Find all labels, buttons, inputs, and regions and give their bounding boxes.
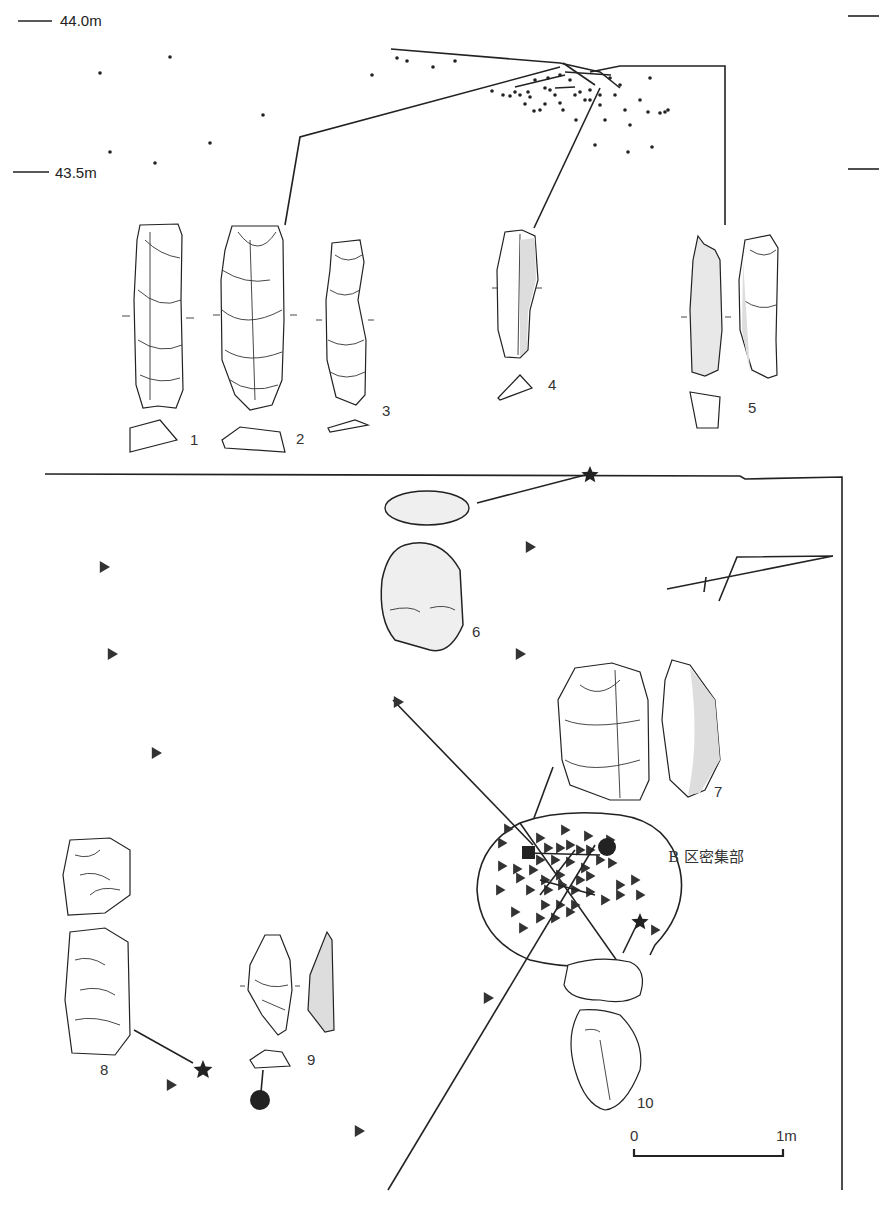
artifact-2: 2 — [213, 226, 304, 452]
artifact-triangle-icon — [596, 855, 605, 866]
refit-line-artifact-7 — [534, 767, 553, 818]
point-dot-icon — [598, 93, 602, 97]
point-dot-icon — [623, 108, 627, 112]
point-dot-icon — [370, 73, 374, 77]
point-dot-icon — [598, 103, 602, 107]
artifact-triangle-icon — [108, 648, 118, 660]
point-dot-icon — [98, 71, 102, 75]
artifact-triangle-icon — [631, 875, 640, 886]
artifact-triangle-icon — [355, 1125, 365, 1137]
artifact-triangle-icon — [601, 895, 610, 906]
point-dot-icon — [513, 90, 517, 94]
point-dot-icon — [648, 76, 652, 80]
artifact-label-10: 10 — [637, 1094, 654, 1111]
point-dot-icon — [603, 118, 607, 122]
artifact-label-6: 6 — [472, 623, 480, 640]
refit-line-artifact-6 — [477, 475, 585, 503]
point-dot-icon — [168, 55, 172, 59]
refit-line-to-artifact-4 — [534, 88, 600, 228]
point-dot-icon — [431, 65, 435, 69]
artifact-triangle-icon — [516, 648, 526, 660]
refit-line-artifact-8 — [134, 1030, 193, 1063]
point-dot-icon — [646, 110, 650, 114]
point-dot-icon — [558, 101, 562, 105]
point-dot-icon — [405, 59, 409, 63]
point-dot-icon — [453, 59, 457, 63]
point-dot-icon — [538, 108, 542, 112]
point-dot-icon — [501, 93, 505, 97]
artifact-triangle-icon — [484, 992, 494, 1004]
artifact-triangle-icon — [636, 890, 645, 901]
artifact-9: 9 — [240, 932, 334, 1068]
point-dot-icon — [508, 94, 512, 98]
point-dot-icon — [561, 108, 565, 112]
artifact-triangle-icon — [566, 857, 575, 868]
artifact-triangle-icon — [498, 838, 507, 849]
cluster-b-marks — [496, 824, 660, 936]
point-dot-icon — [528, 95, 532, 99]
artifact-triangle-icon — [167, 1079, 177, 1091]
point-dot-icon — [583, 98, 587, 102]
artifact-triangle-icon — [529, 865, 538, 876]
scale-bar: 0 1m — [630, 1127, 797, 1156]
refit-line-artifact-9 — [261, 1070, 263, 1092]
point-dot-icon — [543, 86, 547, 90]
point-dot-icon — [578, 90, 582, 94]
artifact-triangle-icon — [513, 864, 522, 875]
point-dot-icon — [208, 141, 212, 145]
artifact-8: 8 — [63, 838, 130, 1078]
artifact-triangle-icon — [100, 561, 110, 573]
artifact-triangle-icon — [616, 880, 625, 891]
point-dot-icon — [553, 93, 557, 97]
excavation-distribution-figure: 44.0m 43.5m 1 2 3 — [0, 0, 881, 1205]
elevation-label-43-5: 43.5m — [55, 164, 97, 181]
point-dot-icon — [593, 143, 597, 147]
artifact-5: 5 — [681, 235, 778, 428]
point-dot-icon — [153, 161, 157, 165]
filled-circle-icon — [250, 1090, 270, 1110]
scale-bar-start-label: 0 — [630, 1127, 638, 1144]
artifact-label-3: 3 — [382, 402, 390, 419]
artifact-10: 10 — [564, 959, 654, 1111]
north-arrow-symbol — [667, 556, 833, 601]
point-dot-icon — [108, 150, 112, 154]
point-dot-icon — [574, 118, 578, 122]
refit-star-icon — [581, 466, 598, 482]
artifact-triangle-icon — [498, 861, 507, 872]
artifact-triangle-icon — [608, 858, 617, 869]
point-dot-icon — [613, 93, 617, 97]
artifact-triangle-icon — [504, 824, 513, 835]
elevation-point-dots — [98, 55, 670, 165]
artifact-triangle-icon — [541, 900, 550, 911]
point-dot-icon — [626, 150, 630, 154]
artifact-triangle-icon — [526, 541, 536, 553]
artifact-7: 7 — [558, 660, 722, 800]
refit-star-icon — [194, 1060, 213, 1078]
point-dot-icon — [543, 102, 547, 106]
refit-line-to-artifact-5 — [590, 66, 725, 225]
point-dot-icon — [588, 98, 592, 102]
elevation-section: 44.0m 43.5m — [13, 12, 879, 228]
point-dot-icon — [650, 145, 654, 149]
artifact-triangle-icon — [566, 840, 575, 851]
refit-star-icon — [631, 913, 648, 929]
point-dot-icon — [261, 113, 265, 117]
scattered-artifact-marks — [100, 466, 599, 1137]
artifact-label-8: 8 — [100, 1061, 108, 1078]
artifact-3: 3 — [316, 240, 390, 432]
artifact-4: 4 — [492, 230, 556, 400]
artifact-triangle-icon — [536, 833, 545, 844]
artifact-triangle-icon — [581, 863, 590, 874]
point-dot-icon — [523, 102, 527, 106]
artifact-triangle-icon — [544, 843, 553, 854]
artifact-triangle-icon — [586, 887, 595, 898]
point-dot-icon — [663, 110, 667, 114]
artifact-triangle-icon — [536, 913, 545, 924]
refit-line-long-south — [388, 845, 595, 1190]
point-dot-icon — [518, 93, 522, 97]
cluster-b-label: B 区密集部 — [668, 848, 744, 866]
artifact-triangle-icon — [551, 913, 560, 924]
artifact-triangle-icon — [576, 875, 585, 886]
point-dot-icon — [548, 88, 552, 92]
filled-circle-icon — [598, 838, 616, 856]
